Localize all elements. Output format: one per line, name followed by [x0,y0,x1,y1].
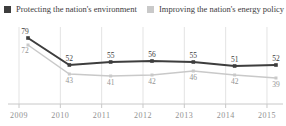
x-tick-label: 2014 [217,111,235,120]
x-tick-label: 2010 [51,111,69,120]
plot-area: 2009201020112012201320142015724341424642… [0,0,286,126]
value-label: 55 [190,51,198,60]
value-label: 42 [231,77,239,86]
value-label: 55 [107,51,115,60]
value-label: 79 [21,27,29,36]
value-label: 72 [21,46,29,55]
x-tick-label: 2013 [175,111,193,120]
value-label: 51 [231,55,239,64]
value-label: 43 [66,76,74,85]
environment-point-marker [26,36,30,40]
x-tick-label: 2012 [134,111,152,120]
x-tick-label: 2009 [10,111,28,120]
value-label: 46 [190,73,198,82]
environment-point-marker [233,64,237,68]
x-tick-label: 2011 [93,111,111,120]
value-label: 52 [66,54,74,63]
environment-point-marker [192,60,196,64]
environment-point-marker [274,63,278,67]
environment-point-marker [109,60,113,64]
value-label: 39 [272,80,280,89]
x-tick-label: 2015 [258,111,276,120]
environment-point-marker [150,59,154,63]
value-label: 41 [107,78,115,87]
environment-point-marker [68,63,72,67]
value-label: 52 [272,54,280,63]
value-label: 56 [148,50,156,59]
priorities-line-chart: Protecting the nation's environment Impr… [0,0,286,126]
value-label: 42 [148,77,156,86]
